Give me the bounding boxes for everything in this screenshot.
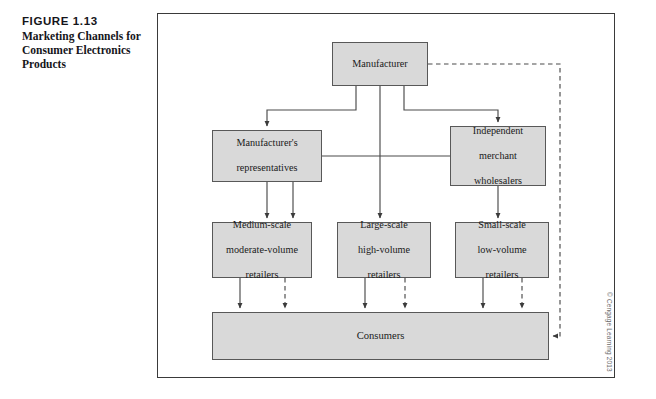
node-manufacturer[interactable]: Manufacturer <box>332 42 428 86</box>
node-small-line-2: low-volume <box>474 244 529 256</box>
node-large-line-1: Large-scale <box>355 219 413 231</box>
node-small-scale-retailers[interactable]: Small-scale low-volume retailers <box>455 222 549 278</box>
node-reps-line-1: Manufacturer's <box>233 137 300 149</box>
node-medium-line-3: retailers <box>223 269 301 281</box>
node-large-line-2: high-volume <box>355 244 413 256</box>
edge-manufacturer-reps <box>267 86 356 126</box>
node-small-label: Small-scale low-volume retailers <box>471 219 532 281</box>
node-wholesalers-line-2: merchant <box>470 150 526 162</box>
node-reps-label: Manufacturer's representatives <box>230 137 303 174</box>
node-large-label: Large-scale high-volume retailers <box>352 219 416 281</box>
node-small-line-1: Small-scale <box>474 219 529 231</box>
node-independent-merchant-wholesalers[interactable]: Independent merchant wholesalers <box>450 126 546 186</box>
edge-manufacturer-consumers-dashed <box>428 64 560 336</box>
copyright-notice: © Cengage Learning 2013 <box>606 292 613 372</box>
node-reps-line-2: representatives <box>233 162 300 174</box>
node-consumers-label: Consumers <box>354 330 408 342</box>
node-consumers[interactable]: Consumers <box>212 312 549 360</box>
node-wholesalers-line-3: wholesalers <box>470 175 526 187</box>
node-small-line-3: retailers <box>474 269 529 281</box>
node-manufacturer-label: Manufacturer <box>349 58 410 70</box>
figure-root: FIGURE 1.13 Marketing Channels for Consu… <box>0 0 656 399</box>
node-medium-label: Medium-scale moderate-volume retailers <box>220 219 304 281</box>
node-medium-scale-retailers[interactable]: Medium-scale moderate-volume retailers <box>212 222 312 278</box>
node-medium-line-2: moderate-volume <box>223 244 301 256</box>
node-wholesalers-label: Independent merchant wholesalers <box>467 125 529 187</box>
node-medium-line-1: Medium-scale <box>223 219 301 231</box>
node-wholesalers-line-1: Independent <box>470 125 526 137</box>
node-large-scale-retailers[interactable]: Large-scale high-volume retailers <box>337 222 431 278</box>
node-large-line-3: retailers <box>355 269 413 281</box>
node-manufacturers-representatives[interactable]: Manufacturer's representatives <box>212 130 322 182</box>
edge-manufacturer-wholesalers <box>404 86 498 122</box>
